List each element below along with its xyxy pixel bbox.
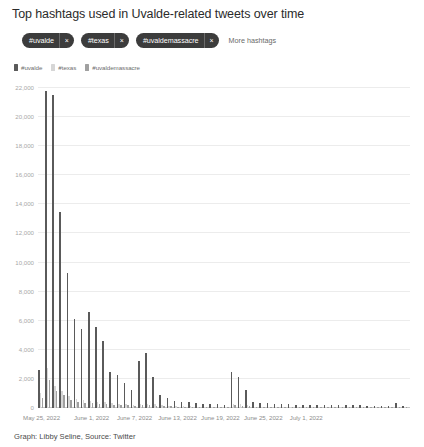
bar-group[interactable] <box>345 88 352 408</box>
bar-group[interactable] <box>181 88 188 408</box>
more-hashtags-link[interactable]: More hashtags <box>229 36 277 45</box>
bar <box>406 407 408 408</box>
chart-legend: #uvalde#texas#uvaldemassacre <box>14 64 140 71</box>
bar <box>134 406 136 408</box>
bar-group[interactable] <box>274 88 281 408</box>
bar <box>284 407 286 408</box>
bar-group[interactable] <box>224 88 231 408</box>
bar-group[interactable] <box>202 88 209 408</box>
legend-item[interactable]: #texas <box>51 64 76 71</box>
bar-group[interactable] <box>331 88 338 408</box>
bar-group[interactable] <box>95 88 102 408</box>
bar-group[interactable] <box>124 88 131 408</box>
bar-group[interactable] <box>59 88 66 408</box>
bar-group[interactable] <box>267 88 274 408</box>
bar-group[interactable] <box>174 88 181 408</box>
bar-group[interactable] <box>52 88 59 408</box>
bar-group[interactable] <box>245 88 252 408</box>
bar-group[interactable] <box>152 88 159 408</box>
bar-group[interactable] <box>231 88 238 408</box>
bar-group[interactable] <box>309 88 316 408</box>
bar <box>277 407 279 408</box>
bar-group[interactable] <box>209 88 216 408</box>
bar <box>334 407 336 408</box>
y-axis-tick-label: 16,000 <box>15 171 34 178</box>
bar <box>59 212 61 408</box>
bar <box>342 407 344 408</box>
bar <box>156 406 158 408</box>
bar-group[interactable] <box>359 88 366 408</box>
y-axis-tick-label: 2,000 <box>19 374 34 381</box>
bar-group[interactable] <box>145 88 152 408</box>
close-icon[interactable]: × <box>114 33 129 48</box>
x-axis-tick-label: June 7, 2022 <box>117 414 152 421</box>
x-axis-tick-label: June 1, 2022 <box>74 414 109 421</box>
close-icon[interactable]: × <box>204 33 219 48</box>
bar-group[interactable] <box>338 88 345 408</box>
bar <box>45 91 47 408</box>
bar <box>356 407 358 408</box>
chart-credit: Graph: Libby Seline, Source: Twitter <box>14 432 135 441</box>
legend-swatch <box>14 64 18 71</box>
bar-group[interactable] <box>167 88 174 408</box>
hashtag-pill[interactable]: #texas× <box>81 33 129 48</box>
legend-item[interactable]: #uvalde <box>14 64 42 71</box>
bar-group[interactable] <box>138 88 145 408</box>
bar-group[interactable] <box>324 88 331 408</box>
bar <box>363 407 365 408</box>
bar <box>127 405 129 408</box>
bar <box>67 273 69 408</box>
bar-group[interactable] <box>316 88 323 408</box>
bar-group[interactable] <box>238 88 245 408</box>
bar-group[interactable] <box>195 88 202 408</box>
bar-group[interactable] <box>117 88 124 408</box>
bar <box>242 406 244 408</box>
y-axis-tick-label: 0 <box>31 404 34 411</box>
bar-group[interactable] <box>81 88 88 408</box>
bar <box>63 395 65 408</box>
bar <box>220 407 222 408</box>
close-icon[interactable]: × <box>59 33 74 48</box>
bar-group[interactable] <box>288 88 295 408</box>
bar <box>70 400 72 408</box>
bar-group[interactable] <box>395 88 402 408</box>
bar <box>49 380 51 408</box>
bar-group[interactable] <box>352 88 359 408</box>
bar-group[interactable] <box>74 88 81 408</box>
bar <box>234 405 236 408</box>
bar-group[interactable] <box>374 88 381 408</box>
hashtag-pill[interactable]: #uvalde× <box>22 33 74 48</box>
bar-group[interactable] <box>366 88 373 408</box>
bar-group[interactable] <box>67 88 74 408</box>
bar-group[interactable] <box>281 88 288 408</box>
bar-group[interactable] <box>102 88 109 408</box>
bar-group[interactable] <box>131 88 138 408</box>
legend-item[interactable]: #uvaldemassacre <box>85 64 140 71</box>
bar-group[interactable] <box>88 88 95 408</box>
bar-group[interactable] <box>381 88 388 408</box>
bar <box>81 329 83 408</box>
bar-group[interactable] <box>402 88 409 408</box>
bar-group[interactable] <box>252 88 259 408</box>
bar-group[interactable] <box>388 88 395 408</box>
bar-group[interactable] <box>109 88 116 408</box>
bar <box>177 407 179 408</box>
bar <box>231 372 233 408</box>
bar <box>145 353 147 408</box>
y-axis-tick-label: 20,000 <box>15 113 34 120</box>
bar-group[interactable] <box>159 88 166 408</box>
bar <box>88 312 90 408</box>
bar <box>306 407 308 408</box>
x-axis-tick-label: June 25, 2022 <box>244 414 283 421</box>
bar-group[interactable] <box>302 88 309 408</box>
bar-group[interactable] <box>259 88 266 408</box>
bar-group[interactable] <box>295 88 302 408</box>
bar-group[interactable] <box>217 88 224 408</box>
bar-group[interactable] <box>45 88 52 408</box>
hashtag-pill[interactable]: #uvaldemassacre× <box>136 33 219 48</box>
bar <box>327 407 329 408</box>
bar <box>92 403 94 408</box>
bar-group[interactable] <box>188 88 195 408</box>
legend-label: #uvalde <box>21 64 42 71</box>
bar-group[interactable] <box>38 88 45 408</box>
